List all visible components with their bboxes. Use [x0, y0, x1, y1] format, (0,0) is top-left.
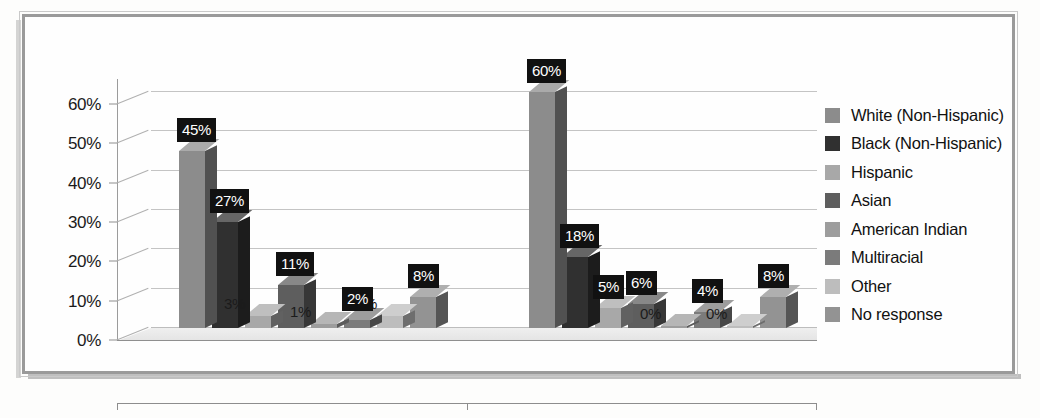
bar	[529, 92, 555, 328]
legend-item[interactable]: Hispanic	[825, 158, 1035, 187]
legend-item[interactable]: Black (Non-Hispanic)	[825, 130, 1035, 159]
bar-front-face	[760, 297, 786, 328]
frame-bottom-shadow	[28, 374, 1021, 379]
legend-item[interactable]: Multiracial	[825, 244, 1035, 273]
y-axis-depth-leader	[117, 91, 149, 105]
y-axis-tick-label: 20%	[68, 252, 101, 272]
y-axis-depth-leader	[117, 288, 149, 302]
bar-value-label: 5%	[593, 275, 624, 299]
bar-value-label: 11%	[276, 252, 314, 276]
category-axis-tick	[816, 403, 817, 410]
chart-frame: 0%10%20%30%40%50%60% 45%27%3%11%1%2%3%8%…	[22, 14, 1015, 374]
legend-item[interactable]: American Indian	[825, 215, 1035, 244]
legend-item-label: Black (Non-Hispanic)	[851, 134, 1002, 153]
bar-value-label: 27%	[210, 189, 249, 213]
y-axis-tick-label: 50%	[68, 134, 101, 154]
y-axis-line	[117, 79, 118, 341]
legend-swatch-icon	[825, 307, 840, 322]
plot-area: 0%10%20%30%40%50%60% 45%27%3%11%1%2%3%8%…	[117, 79, 817, 341]
gridline	[151, 248, 817, 249]
legend-item[interactable]: Other	[825, 272, 1035, 301]
bar-front-face	[529, 92, 555, 328]
bar-value-label: 0%	[705, 303, 728, 324]
y-axis-tick-label: 10%	[68, 292, 101, 312]
bar-value-label: 60%	[527, 59, 566, 83]
legend-item-label: American Indian	[851, 220, 967, 239]
bar-value-label: 8%	[408, 264, 439, 288]
bar-value-label: 8%	[758, 264, 789, 288]
category-axis-tick	[467, 403, 468, 410]
bar-value-label: 3%	[223, 293, 246, 314]
bar	[311, 324, 337, 328]
bar-value-label: 1%	[289, 301, 312, 322]
legend-swatch-icon	[825, 165, 840, 180]
bar-value-label: 4%	[692, 279, 723, 303]
legend-item-label: Hispanic	[851, 163, 913, 182]
y-axis-depth-leader	[117, 130, 149, 144]
bar	[179, 151, 205, 328]
category-axis-tick	[117, 403, 118, 410]
y-axis-depth-leader	[117, 209, 149, 223]
bar-front-face	[661, 326, 687, 328]
bar-value-label: 0%	[639, 303, 662, 324]
legend-item[interactable]: Asian	[825, 187, 1035, 216]
gridline	[151, 130, 817, 131]
y-axis-tick-label: 30%	[68, 213, 101, 233]
bar-side-face	[555, 86, 567, 328]
bar-value-label: 18%	[560, 224, 599, 248]
gridline	[151, 91, 817, 92]
bar	[661, 326, 687, 328]
legend-swatch-icon	[825, 108, 840, 123]
legend-swatch-icon	[825, 193, 840, 208]
scanned-page: 0%10%20%30%40%50%60% 45%27%3%11%1%2%3%8%…	[0, 0, 1040, 418]
frame-left-shadow	[16, 20, 21, 378]
legend-item-label: Asian	[851, 191, 891, 210]
chart-legend: White (Non-Hispanic)Black (Non-Hispanic)…	[825, 101, 1035, 329]
legend-item-label: Multiracial	[851, 248, 923, 267]
gridline	[151, 170, 817, 171]
legend-item-label: Other	[851, 277, 891, 296]
legend-item-label: No response	[851, 305, 942, 324]
bar	[760, 297, 786, 328]
bar-side-face	[786, 291, 798, 328]
y-axis-tick-label: 0%	[77, 331, 101, 351]
bar	[727, 326, 753, 328]
bar-front-face	[179, 151, 205, 328]
legend-swatch-icon	[825, 250, 840, 265]
bar-value-label: 6%	[626, 271, 657, 295]
bar-side-face	[205, 145, 217, 328]
bar-front-face	[727, 326, 753, 328]
plot-floor-front-edge	[117, 340, 817, 341]
legend-swatch-icon	[825, 136, 840, 151]
legend-swatch-icon	[825, 222, 840, 237]
legend-item[interactable]: White (Non-Hispanic)	[825, 101, 1035, 130]
bar-front-face	[311, 324, 337, 328]
y-axis-depth-leader	[117, 170, 149, 184]
bar-value-label: 45%	[177, 118, 216, 142]
legend-swatch-icon	[825, 279, 840, 294]
y-axis-tick-label: 60%	[68, 95, 101, 115]
legend-item[interactable]: No response	[825, 301, 1035, 330]
y-axis-tick-label: 40%	[68, 174, 101, 194]
bar-side-face	[436, 291, 448, 328]
bar-value-label: 2%	[342, 287, 373, 311]
y-axis-depth-leader	[117, 248, 149, 262]
legend-item-label: White (Non-Hispanic)	[851, 106, 1004, 125]
